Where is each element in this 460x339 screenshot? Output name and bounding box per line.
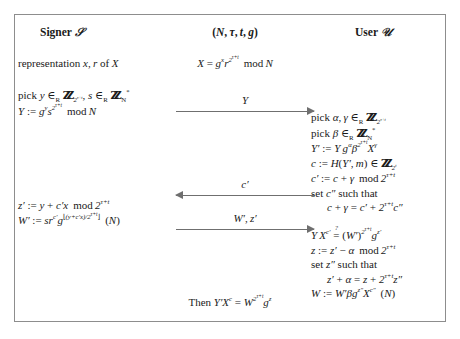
user-unblind-z-line: z := z′ − α mod 2τ+t [311,243,402,258]
user-verification-block: Y Xc′ ? = (W′)2τ+tgz′ z := z′ − α mod 2τ… [311,228,402,301]
arrow-message-y: Y [176,94,314,120]
representation-text: representation [18,57,80,69]
arrow-line-w-z [176,229,314,230]
user-blinding-block: pick α, γ ∈R ZZ2τ+t pick β ∈R ZZN* Y′ :=… [311,110,403,215]
user-set-c-second-label: set c″ such that [311,186,403,201]
representation-vars: x, r [83,57,97,69]
arrow-label-y: Y [176,94,314,106]
user-verification-line: Y Xc′ ? = (W′)2τ+tgz′ [311,228,402,243]
arrow-label-w-z: W′, z′ [176,212,314,224]
public-key-equation: X = gxr2τ+t mod N [160,56,310,71]
user-blinded-commitment-line: Y′ := Y gαβ2τ+tXγ [311,141,403,156]
signer-response-block: z′ := y + c′x mod 2τ+t W′ := src′g⌊(y+c′… [18,198,120,227]
arrow-line-c-prime [176,195,314,196]
user-set-z-second-label: set z″ such that [311,257,402,272]
signer-response-z-line: z′ := y + c′x mod 2τ+t [18,198,120,213]
signer-symbol: 𝒮 [75,26,84,38]
conclusion-prefix: Then [188,296,211,308]
column-heading-public-parameters: (N, τ, t, g) [160,26,310,38]
signer-representation-line: representation x, r of X [18,56,119,71]
user-pick-beta-line: pick β ∈R ZZN* [311,126,403,142]
arrow-message-c-prime: c′ [176,178,314,204]
public-key-formula: X = gxr2τ+t mod N [197,57,273,69]
user-symbol: 𝒰 [381,26,391,38]
arrowhead-left-icon [175,191,183,199]
conclusion-equation: Y′Xc = W2τ+tgz [214,296,272,308]
arrow-message-w-z: W′, z′ [176,212,314,238]
user-blinded-challenge-line: c′ := c + γ mod 2τ+t [311,171,403,186]
arrow-line-y [176,111,314,112]
user-set-c-second-equation: c + γ = c′ + 2τ+tc″ [311,200,403,215]
representation-of: of [100,57,109,69]
user-pick-alpha-gamma-line: pick α, γ ∈R ZZ2τ+t [311,110,403,126]
arrow-label-c-prime: c′ [176,178,314,190]
representation-target: X [112,57,119,69]
signer-role-label: Signer [40,26,72,38]
user-challenge-line: c := H(Y′, m) ∈ ZZ2t [311,156,403,172]
public-parameters-tuple: (N, τ, t, g) [212,26,258,38]
column-heading-signer: Signer 𝒮 [40,26,84,39]
user-role-label: User [355,26,378,38]
protocol-conclusion: Then Y′Xc = W2τ+tgz [14,296,446,308]
signer-commitment-block: pick y ∈R ZZ2τ+t, s ∈R ZZN* Y := gys2τ+t… [18,88,130,118]
signer-commitment-line: Y := gys2τ+t mod N [18,104,130,119]
user-set-z-second-equation: z′ + α = z + 2τ+tz″ [311,272,402,287]
column-heading-user: User 𝒰 [355,26,391,39]
signer-pick-line: pick y ∈R ZZ2τ+t, s ∈R ZZN* [18,88,130,104]
signer-response-w-line: W′ := src′g⌊(y+c′x)/2τ+t⌋ (N) [18,213,120,228]
